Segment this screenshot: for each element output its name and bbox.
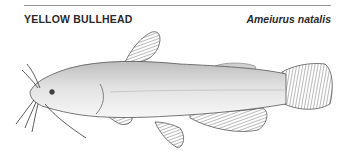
common-name: YELLOW BULLHEAD xyxy=(24,13,133,25)
fish-illustration xyxy=(0,30,351,160)
caudal-fin xyxy=(282,63,332,109)
fish-body xyxy=(30,61,286,117)
fish-eye xyxy=(50,90,55,95)
header-rule xyxy=(24,5,331,6)
pelvic-fin xyxy=(155,122,184,148)
scientific-name: Ameiurus natalis xyxy=(246,13,331,25)
dorsal-fin xyxy=(125,32,160,62)
